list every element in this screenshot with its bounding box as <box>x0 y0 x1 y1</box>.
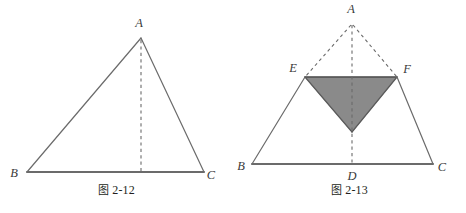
vertex-label-C: C <box>438 160 447 174</box>
geometry-drawing-2-12: A B C <box>0 0 233 180</box>
caption-number: 2-12 <box>112 183 135 197</box>
figure-stage: A B C 图2-12 A B <box>0 0 466 213</box>
edge-AC <box>141 38 204 172</box>
vertex-label-B: B <box>10 166 18 180</box>
figure-panel-2-13: A B C D E F 图2-13 <box>233 0 466 213</box>
geometry-drawing-2-13: A B C D E F <box>233 0 466 180</box>
edge-AB <box>27 38 141 172</box>
caption-cjk-label: 图 <box>98 184 109 197</box>
vertex-label-F: F <box>402 62 411 76</box>
vertex-label-A: A <box>134 16 143 30</box>
figure-caption-2-13: 图2-13 <box>233 181 466 198</box>
figure-caption-2-12: 图2-12 <box>0 181 233 198</box>
shaded-triangle-EFG <box>305 77 397 132</box>
edge-FC <box>397 77 433 164</box>
edge-AE <box>305 25 351 77</box>
edge-BE <box>252 77 305 164</box>
vertex-label-B: B <box>237 159 245 173</box>
edge-AF <box>353 25 397 77</box>
vertex-label-A: A <box>346 2 355 16</box>
caption-number: 2-13 <box>345 183 368 197</box>
vertex-label-E: E <box>288 61 297 75</box>
vertex-label-C: C <box>207 168 216 180</box>
figure-panel-2-12: A B C 图2-12 <box>0 0 233 213</box>
vertex-label-D: D <box>346 169 356 180</box>
caption-cjk-label: 图 <box>331 184 342 197</box>
